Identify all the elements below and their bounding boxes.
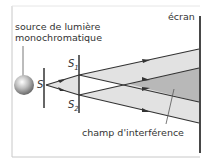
interference-label: champ d'interférence <box>82 127 184 138</box>
screen-label: écran <box>168 11 195 22</box>
beam-s <box>46 75 79 95</box>
slit-s1-label: S1 <box>68 58 79 72</box>
light-source-icon <box>14 75 34 95</box>
source-label-line2: monochromatique <box>15 32 102 43</box>
source-label-line1: source de lumière <box>15 21 100 32</box>
slit-s2-label: S2 <box>68 99 79 113</box>
slit-s-label: S <box>37 79 43 90</box>
